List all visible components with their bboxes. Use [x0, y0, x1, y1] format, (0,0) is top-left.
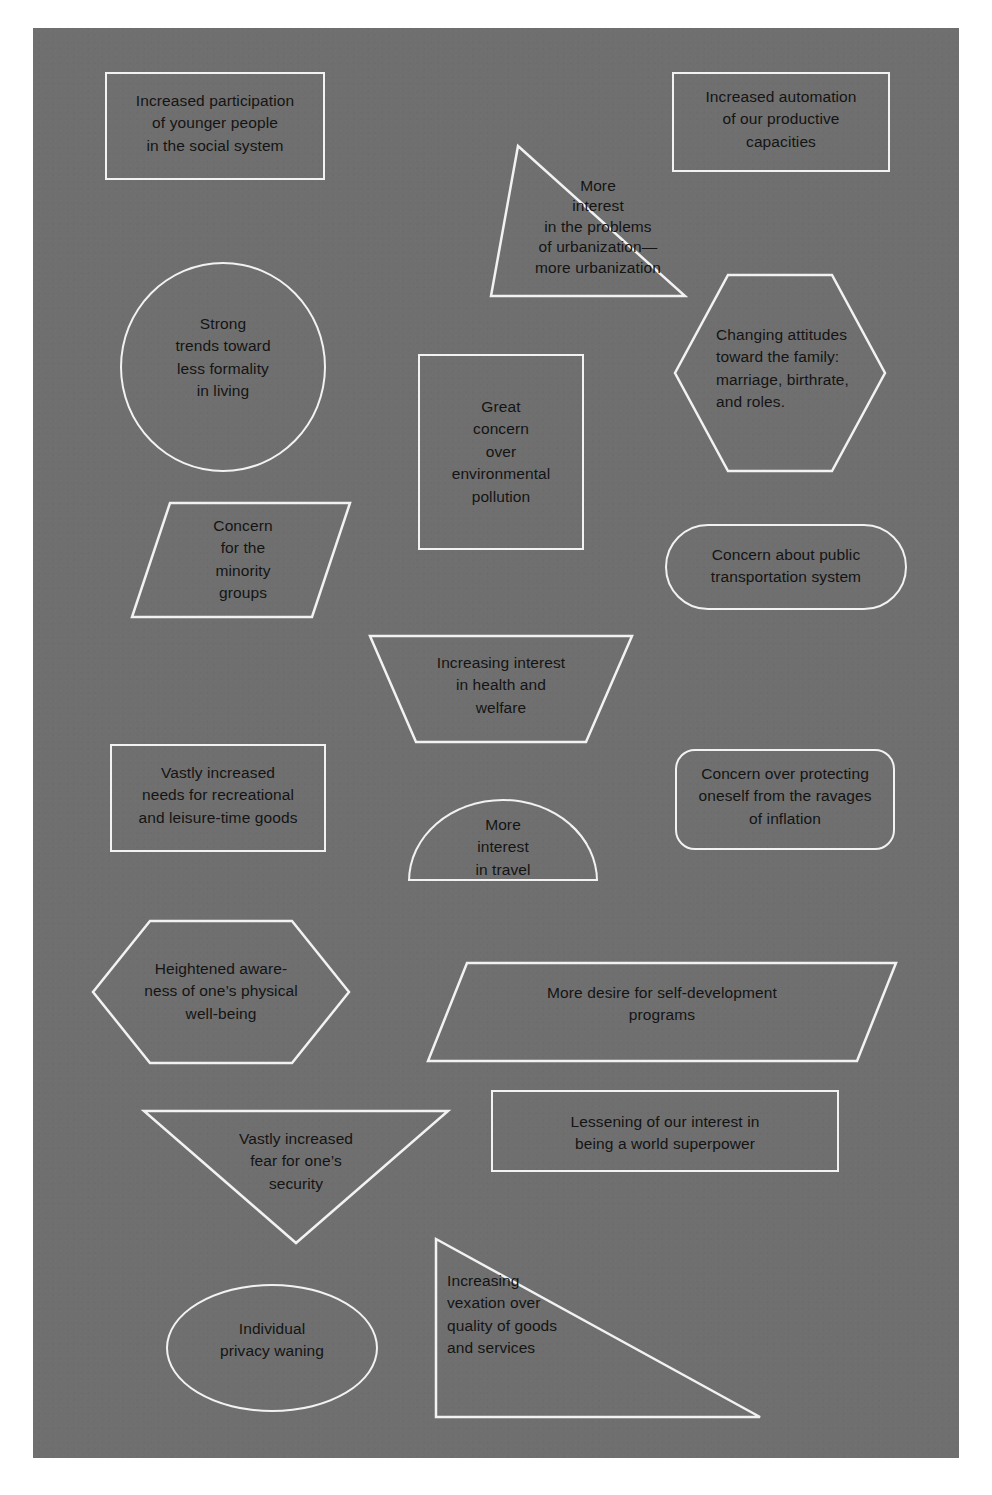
shape-recreational-goods[interactable] — [110, 744, 326, 852]
shape-interest-in-travel[interactable] — [408, 799, 598, 881]
shape-increased-participation[interactable] — [105, 72, 325, 180]
shape-ravages-of-inflation[interactable] — [675, 749, 895, 850]
shape-fear-for-security[interactable] — [141, 1108, 451, 1246]
shape-minority-groups[interactable] — [129, 500, 353, 620]
diagram-page: Increased participation of younger peopl… — [0, 0, 992, 1495]
shape-quality-of-goods[interactable] — [433, 1236, 763, 1420]
shape-individual-privacy[interactable] — [166, 1284, 378, 1412]
shape-urbanization-interest[interactable] — [488, 143, 688, 299]
diagram-canvas: Increased participation of younger peopl… — [33, 28, 959, 1458]
shape-physical-well-being[interactable] — [90, 919, 352, 1065]
shape-less-formality[interactable] — [120, 262, 326, 472]
shape-public-transportation[interactable] — [665, 524, 907, 610]
shape-changing-attitudes-family[interactable] — [672, 273, 888, 473]
shape-health-and-welfare[interactable] — [367, 633, 635, 745]
shape-self-development-programs[interactable] — [425, 960, 899, 1064]
shape-world-superpower[interactable] — [491, 1090, 839, 1172]
shape-increased-automation[interactable] — [672, 72, 890, 172]
shape-environmental-pollution[interactable] — [418, 354, 584, 550]
